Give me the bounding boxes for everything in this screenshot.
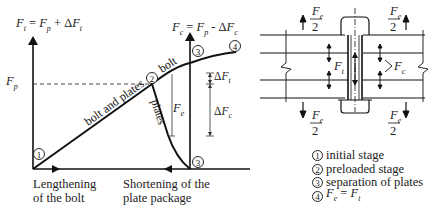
y-axis-label-right: Fc = Fp - ΔFc [172, 20, 238, 40]
lengthening-arrow-icon [52, 165, 60, 173]
legend-item: 4 Fe = Ft [312, 190, 423, 204]
bolt-tension-up-arrow-icon [352, 52, 358, 58]
shortening-arrow-icon [164, 165, 172, 173]
fe-label: Fe [173, 101, 184, 121]
svg-text:2: 2 [150, 74, 155, 84]
top-left-force-denominator: 2 [312, 20, 318, 34]
point-3-bottom-marker: 3 [193, 157, 204, 168]
force-deformation-graph: 1 2 3 3 4 bolt and plates bolt plates [28, 32, 250, 173]
top-right-force-denominator: 2 [390, 20, 396, 34]
plates-curve [152, 84, 190, 169]
stage-legend: 1 initial stage 2 preloaded stage 3 sepa… [312, 149, 423, 203]
legend-item: 1 initial stage [312, 149, 423, 163]
point-3-top-marker: 3 [193, 46, 204, 57]
point-4-marker: 4 [230, 41, 241, 52]
point-1-marker: 1 [34, 149, 45, 160]
bolt-label: bolt [156, 53, 180, 75]
svg-text:4: 4 [233, 42, 238, 52]
plate-force-label: Fc [394, 59, 405, 79]
x-axis-left-label: Lengthening of the bolt [33, 177, 96, 205]
left-y-axis-arrow-icon [28, 36, 38, 45]
bottom-right-force-denominator: 2 [390, 124, 396, 138]
fc-brace [385, 60, 392, 72]
svg-text:3: 3 [196, 158, 201, 168]
bottom-left-force-denominator: 2 [312, 124, 318, 138]
svg-text:3: 3 [196, 47, 201, 57]
point-2-marker: 2 [147, 73, 158, 84]
delta-ft-label: ΔFt [214, 69, 231, 88]
bolt-tension-down-arrow-icon [352, 80, 358, 86]
preload-label: Fp [6, 74, 18, 94]
x-axis-right-label: Shortening of the plate package [123, 177, 210, 205]
delta-fc-label: ΔFc [214, 104, 232, 123]
y-axis-label-left: Ft = Fp + ΔFt [16, 16, 82, 36]
legend-item: 2 preloaded stage [312, 163, 423, 177]
svg-text:1: 1 [37, 150, 42, 160]
plates-label: plates [149, 98, 168, 126]
bolt-force-label: Ft [334, 59, 344, 79]
